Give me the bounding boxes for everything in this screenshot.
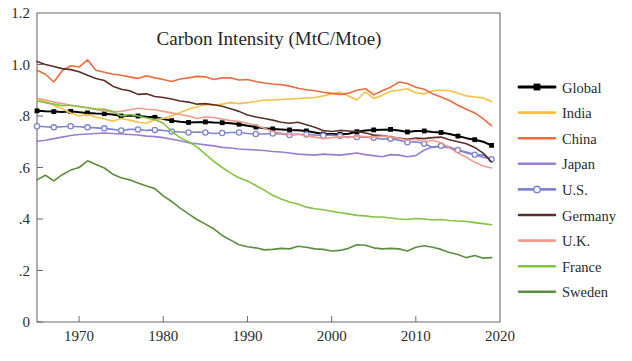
- x-tick-label: 1990: [232, 328, 262, 344]
- legend-label: India: [562, 105, 592, 121]
- legend-label: U.K.: [562, 233, 590, 249]
- y-tick-label: .2: [19, 263, 30, 279]
- legend-label: China: [562, 131, 597, 147]
- x-tick-label: 2020: [485, 328, 515, 344]
- carbon-intensity-line-chart: 197019801990200020102020 0.2.4.6.81.01.2…: [0, 0, 632, 361]
- legend-label: Global: [562, 80, 601, 96]
- x-tick-label: 1980: [148, 328, 178, 344]
- x-tick-label: 2010: [401, 328, 431, 344]
- legend-label: Sweden: [562, 284, 609, 300]
- legend-label: France: [562, 259, 601, 275]
- chart-title: Carbon Intensity (MtC/Mtoe): [157, 28, 382, 50]
- legend-label: Germany: [562, 208, 617, 224]
- x-tick-label: 2000: [317, 328, 347, 344]
- y-tick-label: .8: [19, 108, 30, 124]
- y-tick-label: 0: [23, 314, 31, 330]
- legend-label: U.S.: [562, 182, 588, 198]
- x-tick-label: 1970: [64, 328, 94, 344]
- chart-figure: 197019801990200020102020 0.2.4.6.81.01.2…: [0, 0, 632, 361]
- chart-background: [0, 0, 632, 361]
- legend-label: Japan: [562, 156, 596, 172]
- y-tick-label: 1.2: [11, 5, 30, 21]
- y-tick-label: 1.0: [11, 57, 30, 73]
- y-tick-label: .4: [19, 211, 31, 227]
- y-tick-label: .6: [19, 160, 31, 176]
